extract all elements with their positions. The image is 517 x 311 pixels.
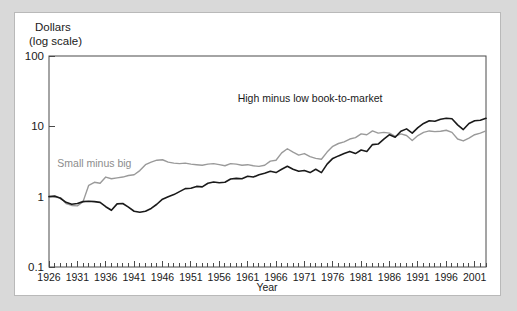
x-axis-ticks: [49, 261, 486, 267]
x-axis-title: Year: [256, 281, 278, 293]
x-tick-label: 1931: [66, 271, 90, 283]
y-tick-label: 1: [38, 191, 44, 203]
x-tick-label: 1926: [37, 271, 61, 283]
y-axis-title-line1: Dollars: [35, 21, 71, 33]
y-tick-label: 10: [31, 120, 44, 132]
y-axis-title-line2: (log scale): [29, 35, 82, 47]
x-tick-label: 1941: [122, 271, 146, 283]
x-tick-label: 1971: [293, 271, 317, 283]
y-axis-title: Dollars (log scale): [29, 21, 82, 47]
x-tick-label: 1936: [94, 271, 118, 283]
figure-card: Dollars (log scale) 1001010.1 1926193119…: [14, 12, 501, 296]
x-tick-label: 1996: [435, 271, 459, 283]
x-tick-label: 1951: [179, 271, 203, 283]
chart-canvas: Dollars (log scale) 1001010.1 1926193119…: [15, 13, 500, 295]
x-tick-label: 2001: [463, 271, 487, 283]
x-tick-label: 1946: [151, 271, 175, 283]
x-tick-label: 1991: [406, 271, 430, 283]
x-tick-label: 1981: [349, 271, 373, 283]
series-label-high-minus-low-book-to-market: High minus low book-to-market: [238, 92, 383, 104]
y-axis-ticks: 1001010.1: [25, 50, 55, 273]
x-tick-label: 1976: [321, 271, 345, 283]
y-tick-label: 100: [25, 50, 44, 62]
x-tick-label: 1986: [378, 271, 402, 283]
series-label-small-minus-big: Small minus big: [57, 157, 131, 169]
x-tick-label: 1956: [208, 271, 232, 283]
